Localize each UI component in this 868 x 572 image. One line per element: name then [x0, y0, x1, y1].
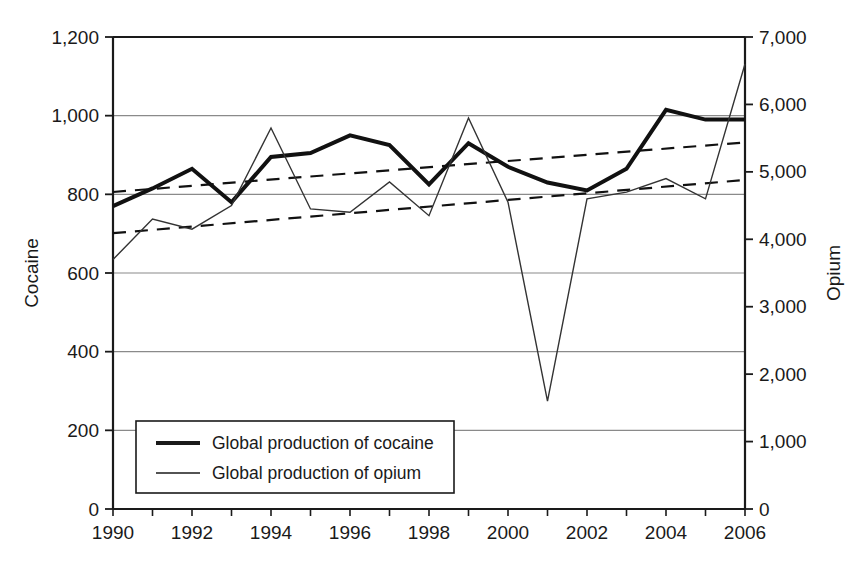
- x-axis-tick-labels: 199019921994199619982000200220042006: [92, 522, 766, 543]
- x-tick-label: 2002: [566, 522, 608, 543]
- left-tick-label: 800: [67, 184, 99, 205]
- legend: Global production of cocaineGlobal produ…: [136, 421, 454, 493]
- x-tick-label: 1994: [250, 522, 293, 543]
- left-tick-label: 600: [67, 263, 99, 284]
- right-tick-label: 2,000: [759, 364, 807, 385]
- chart-container: 199019921994199619982000200220042006 020…: [0, 0, 868, 572]
- left-tick-label: 0: [88, 499, 99, 520]
- right-tick-label: 7,000: [759, 27, 807, 48]
- right-tick-label: 0: [759, 499, 770, 520]
- x-tick-label: 2004: [645, 522, 688, 543]
- x-tick-label: 1996: [329, 522, 371, 543]
- left-tick-label: 400: [67, 341, 99, 362]
- right-tick-label: 1,000: [759, 431, 807, 452]
- left-axis-title: Cocaine: [21, 238, 42, 308]
- x-tick-label: 1992: [171, 522, 213, 543]
- x-tick-label: 2006: [724, 522, 766, 543]
- legend-label-opium: Global production of opium: [212, 463, 421, 483]
- legend-label-cocaine: Global production of cocaine: [212, 433, 434, 453]
- x-tick-label: 2000: [487, 522, 529, 543]
- left-tick-label: 200: [67, 420, 99, 441]
- x-tick-label: 1998: [408, 522, 450, 543]
- left-tick-label: 1,200: [51, 27, 99, 48]
- right-axis-title: Opium: [823, 245, 844, 301]
- left-tick-label: 1,000: [51, 105, 99, 126]
- right-tick-label: 4,000: [759, 229, 807, 250]
- x-tick-label: 1990: [92, 522, 134, 543]
- right-tick-label: 3,000: [759, 296, 807, 317]
- right-tick-label: 6,000: [759, 94, 807, 115]
- right-tick-label: 5,000: [759, 161, 807, 182]
- line-chart: 199019921994199619982000200220042006 020…: [0, 0, 868, 572]
